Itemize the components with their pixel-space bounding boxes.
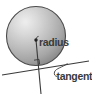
diagram-canvas: radius tangent [0,0,92,96]
radius-label: radius [39,36,69,48]
tangent-label: tangent [57,70,93,82]
circle-tangent-diagram: radius tangent [0,0,92,96]
